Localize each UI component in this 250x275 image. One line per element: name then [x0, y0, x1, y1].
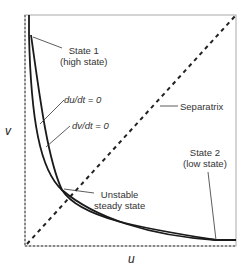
unstable-subtitle: steady state: [94, 200, 145, 211]
separatrix-label: Separatrix: [180, 101, 223, 112]
state1-leader: [33, 37, 62, 48]
state1-label: State 1 (high state): [60, 45, 108, 67]
state1-title: State 1: [60, 45, 108, 56]
state2-title: State 2: [183, 147, 227, 158]
v-axis-label: v: [5, 124, 11, 138]
du-nullcline-label: du/dt = 0: [64, 94, 101, 105]
unstable-label: Unstable steady state: [94, 189, 145, 211]
state2-label: State 2 (low state): [183, 147, 227, 169]
dv-leader: [46, 126, 70, 147]
dv-nullcline-label: dv/dt = 0: [72, 120, 109, 131]
unstable-title: Unstable: [94, 189, 145, 200]
state2-subtitle: (low state): [183, 158, 227, 169]
du-leader: [40, 100, 64, 124]
state1-subtitle: (high state): [60, 56, 108, 67]
u-axis-label: u: [128, 252, 135, 266]
unstable-leader: [64, 189, 94, 193]
phase-plane-plot: [0, 0, 250, 275]
state2-leader: [208, 172, 216, 240]
